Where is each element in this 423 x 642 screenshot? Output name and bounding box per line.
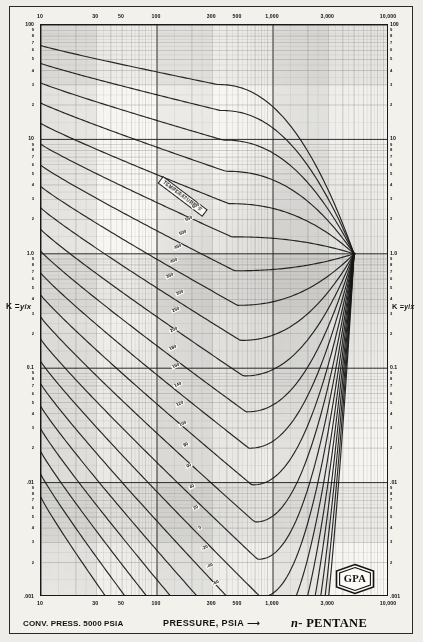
y-minor-right-3: 3 <box>390 81 392 86</box>
y-minor-left-3: 3 <box>32 425 34 430</box>
y-minor-right-7: 7 <box>390 268 392 273</box>
y-minor-left-2: 2 <box>32 101 34 106</box>
y-minor-left-9: 9 <box>32 27 34 32</box>
y-axis-label-right: K =y/x <box>392 302 414 311</box>
y-minor-right-5: 5 <box>390 285 392 290</box>
x-tick-top-30: 30 <box>92 13 98 19</box>
y-axis-label-left: K =y/x <box>6 301 31 311</box>
y-minor-right-8: 8 <box>390 490 392 495</box>
x-tick-bottom-500: 500 <box>233 600 242 606</box>
x-tick-bottom-100: 100 <box>152 600 161 606</box>
y-tick-left-p001: .001 <box>24 593 34 599</box>
y-minor-left-9: 9 <box>32 256 34 261</box>
k-equals-left: K = <box>6 301 20 311</box>
y-minor-right-4: 4 <box>390 410 392 415</box>
x-tick-bottom-3000: 3,000 <box>321 600 334 606</box>
y-minor-right-9: 9 <box>390 141 392 146</box>
y-minor-left-2: 2 <box>32 445 34 450</box>
y-minor-right-3: 3 <box>390 425 392 430</box>
y-minor-right-2: 2 <box>390 216 392 221</box>
y-minor-right-6: 6 <box>390 390 392 395</box>
k-denominator-left: x <box>27 302 32 311</box>
y-minor-right-5: 5 <box>390 514 392 519</box>
y-minor-right-5: 5 <box>390 56 392 61</box>
y-minor-right-8: 8 <box>390 376 392 381</box>
y-minor-left-7: 7 <box>32 39 34 44</box>
y-minor-right-4: 4 <box>390 296 392 301</box>
y-minor-left-2: 2 <box>32 330 34 335</box>
y-minor-left-3: 3 <box>32 310 34 315</box>
y-minor-left-2: 2 <box>32 559 34 564</box>
y-minor-left-9: 9 <box>32 141 34 146</box>
k-numerator-right: y <box>404 303 408 310</box>
y-minor-left-5: 5 <box>32 56 34 61</box>
y-minor-right-3: 3 <box>390 196 392 201</box>
k-numerator-left: y <box>20 302 25 311</box>
y-minor-right-2: 2 <box>390 101 392 106</box>
y-minor-left-3: 3 <box>32 196 34 201</box>
k-equals-right: K = <box>392 302 404 311</box>
y-minor-right-8: 8 <box>390 261 392 266</box>
y-minor-left-9: 9 <box>32 370 34 375</box>
y-minor-left-6: 6 <box>32 504 34 509</box>
x-tick-top-300: 300 <box>207 13 216 19</box>
y-minor-right-4: 4 <box>390 181 392 186</box>
y-minor-right-4: 4 <box>390 67 392 72</box>
y-minor-right-9: 9 <box>390 370 392 375</box>
y-minor-left-7: 7 <box>32 268 34 273</box>
y-minor-right-9: 9 <box>390 484 392 489</box>
grid-and-curves-svg <box>41 25 388 596</box>
compound-name: n- PENTANE <box>291 616 367 631</box>
x-tick-bottom-30: 30 <box>92 600 98 606</box>
y-minor-left-4: 4 <box>32 296 34 301</box>
y-minor-right-7: 7 <box>390 154 392 159</box>
y-minor-left-4: 4 <box>32 525 34 530</box>
k-denominator-right: x <box>410 303 414 310</box>
y-minor-left-8: 8 <box>32 490 34 495</box>
y-minor-right-3: 3 <box>390 310 392 315</box>
compound-suffix: - PENTANE <box>298 616 367 630</box>
y-minor-right-3: 3 <box>390 539 392 544</box>
y-minor-left-6: 6 <box>32 47 34 52</box>
y-minor-right-6: 6 <box>390 161 392 166</box>
x-tick-bottom-10000: 10,000 <box>380 600 396 606</box>
x-tick-top-1000: 1,000 <box>265 13 278 19</box>
y-minor-left-4: 4 <box>32 410 34 415</box>
log-log-grid <box>41 25 387 595</box>
y-minor-right-6: 6 <box>390 276 392 281</box>
y-minor-left-6: 6 <box>32 276 34 281</box>
y-minor-left-9: 9 <box>32 484 34 489</box>
y-minor-left-8: 8 <box>32 147 34 152</box>
y-minor-left-4: 4 <box>32 67 34 72</box>
arrow-icon: ⟶ <box>247 618 260 628</box>
x-tick-bottom-300: 300 <box>207 600 216 606</box>
x-tick-bottom-10: 10 <box>37 600 43 606</box>
y-minor-right-4: 4 <box>390 525 392 530</box>
y-minor-right-5: 5 <box>390 170 392 175</box>
y-minor-left-3: 3 <box>32 539 34 544</box>
y-minor-right-9: 9 <box>390 27 392 32</box>
footer-caption-bar: CONV. PRESS. 5000 PSIA PRESSURE, PSIA⟶ n… <box>11 612 411 634</box>
y-minor-right-2: 2 <box>390 330 392 335</box>
x-axis-title: PRESSURE, PSIA⟶ <box>163 618 260 628</box>
y-minor-right-8: 8 <box>390 147 392 152</box>
y-minor-right-7: 7 <box>390 39 392 44</box>
y-minor-right-6: 6 <box>390 47 392 52</box>
y-minor-right-5: 5 <box>390 399 392 404</box>
x-tick-top-10: 10 <box>37 13 43 19</box>
y-minor-right-2: 2 <box>390 445 392 450</box>
plot-area <box>40 24 388 596</box>
y-minor-left-5: 5 <box>32 399 34 404</box>
y-minor-left-8: 8 <box>32 33 34 38</box>
y-minor-left-5: 5 <box>32 170 34 175</box>
gpa-logo-text: GPA <box>344 573 367 584</box>
y-minor-left-5: 5 <box>32 285 34 290</box>
y-minor-left-7: 7 <box>32 382 34 387</box>
y-minor-left-6: 6 <box>32 390 34 395</box>
convergence-point <box>352 252 355 255</box>
x-tick-top-3000: 3,000 <box>321 13 334 19</box>
y-minor-left-4: 4 <box>32 181 34 186</box>
x-tick-top-500: 500 <box>233 13 242 19</box>
y-minor-left-5: 5 <box>32 514 34 519</box>
y-minor-right-8: 8 <box>390 33 392 38</box>
